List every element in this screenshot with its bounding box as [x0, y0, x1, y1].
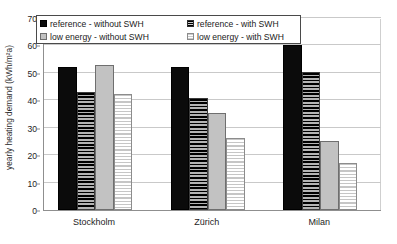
bar: [95, 65, 114, 210]
legend-swatch-icon-low-energy-with-swh: [187, 33, 194, 40]
legend-entry-reference-without-swh: reference - without SWH: [40, 19, 187, 29]
bar: [171, 67, 190, 210]
bar: [283, 45, 302, 210]
x-axis-category-labels: StockholmZürichMilan: [43, 213, 381, 235]
bar: [58, 67, 77, 210]
legend-label: reference - with SWH: [197, 19, 279, 29]
y-axis-tick-mark: [37, 101, 40, 102]
bar: [208, 113, 227, 210]
y-axis-title-label: yearly heating demand (kWh/m²a): [5, 45, 14, 170]
y-axis-tick-mark: [37, 211, 40, 212]
legend-swatch-icon-low-energy-without-swh: [40, 33, 47, 40]
bar: [114, 94, 133, 210]
legend-label: low energy - without SWH: [50, 32, 149, 42]
x-axis-category-label: Zürich: [194, 217, 219, 227]
x-axis-category-label: Milan: [309, 217, 331, 227]
y-axis-tick-mark: [37, 46, 40, 47]
bar-group-stockholm: [58, 19, 132, 210]
y-axis-tick-mark: [37, 128, 40, 129]
legend-entry-low-energy-without-swh: low energy - without SWH: [40, 32, 187, 42]
y-axis-tick-label: 50: [27, 69, 37, 79]
x-axis-category-label: Stockholm: [73, 217, 115, 227]
legend-label: low energy - with SWH: [197, 32, 284, 42]
y-axis-tick-label: 10: [27, 179, 37, 189]
bar: [226, 138, 245, 210]
y-axis-tick-mark: [37, 183, 40, 184]
y-axis-title: yearly heating demand (kWh/m²a): [0, 0, 18, 215]
legend-entry-low-energy-with-swh: low energy - with SWH: [187, 32, 305, 42]
bar: [339, 163, 358, 210]
y-axis-tick-label: 20: [27, 151, 37, 161]
legend-swatch-icon-reference-with-swh: [187, 20, 194, 27]
y-axis-tick-mark: [37, 73, 40, 74]
bar: [77, 92, 96, 210]
bar: [302, 72, 321, 211]
y-axis-tick-label: 40: [27, 96, 37, 106]
bar: [320, 141, 339, 210]
bar: [189, 98, 208, 210]
y-axis-tick-label: 30: [27, 124, 37, 134]
bar-group-milan: [283, 19, 357, 210]
legend-entry-reference-with-swh: reference - with SWH: [187, 19, 305, 29]
legend-swatch-icon-reference-without-swh: [40, 20, 47, 27]
bar-group-zrich: [171, 19, 245, 210]
legend: reference - without SWH reference - with…: [36, 15, 301, 44]
legend-label: reference - without SWH: [50, 19, 144, 29]
y-axis-tick-mark: [37, 156, 40, 157]
bar-chart: yearly heating demand (kWh/m²a) 01020304…: [0, 0, 397, 244]
plot-area: [43, 19, 381, 211]
